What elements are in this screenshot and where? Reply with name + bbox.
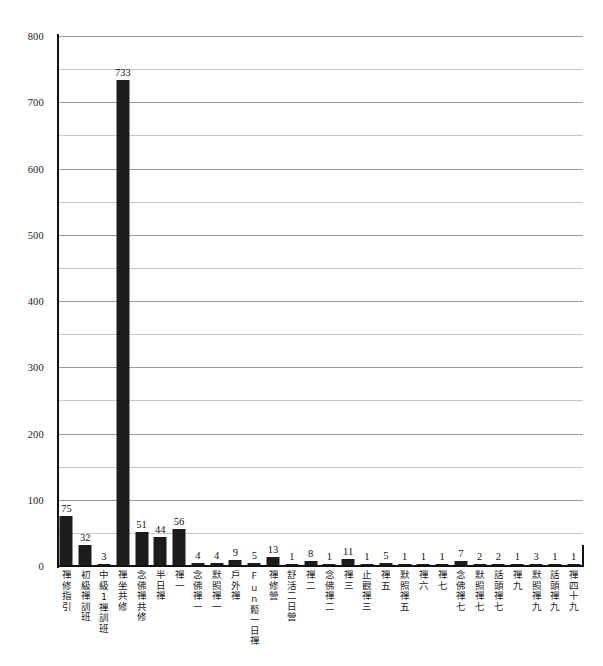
bar-value-label: 3 [533, 551, 538, 562]
bar-group: 2 [470, 36, 489, 566]
bar-group: 75 [57, 36, 76, 566]
x-axis-category-label: 舒活二日營 [286, 570, 297, 623]
y-axis-line [57, 34, 59, 568]
bar-value-label: 1 [571, 551, 576, 562]
x-axis-category-label: 默照禪七 [474, 570, 485, 612]
bar-value-label: 733 [115, 67, 131, 78]
bar-value-label: 5 [252, 550, 257, 561]
bar [135, 532, 148, 566]
y-axis-tick-label: 0 [39, 561, 44, 572]
bar-value-label: 1 [439, 551, 444, 562]
x-axis-category-labels: 禪修指引初級禪訓班中級1禪訓班禪坐共修念佛禪共修半日禪禪一念佛禪一默照禪一戶外禪… [57, 570, 583, 664]
bar-value-label: 56 [174, 516, 185, 527]
bar-group: 1 [282, 36, 301, 566]
bar-value-label: 9 [233, 547, 238, 558]
bar-group: 1 [395, 36, 414, 566]
x-axis-category-label: 默照禪九 [531, 570, 542, 612]
x-axis-category-label: 禪三 [343, 570, 354, 591]
x-axis-category-label: 禪修營 [268, 570, 279, 602]
bar-value-label: 11 [343, 546, 353, 557]
x-axis-category-label: Fun鬆一日禪 [249, 570, 260, 647]
bar-value-label: 7 [458, 548, 463, 559]
bar-group: 5 [245, 36, 264, 566]
bar-value-label: 1 [289, 551, 294, 562]
bar-value-label: 8 [308, 548, 313, 559]
bar-group: 3 [527, 36, 546, 566]
bar-value-label: 2 [477, 551, 482, 562]
bar-group: 1 [358, 36, 377, 566]
x-axis-category-label: 禪七 [437, 570, 448, 591]
x-axis-category-label: 默照禪一 [211, 570, 222, 612]
bar-value-label: 5 [383, 550, 388, 561]
bar [154, 537, 167, 566]
y-axis-tick-label: 500 [28, 229, 44, 240]
x-axis-category-label: 禪二 [305, 570, 316, 591]
x-axis-category-label: 禪修指引 [61, 570, 72, 612]
bar-group: 1 [508, 36, 527, 566]
x-axis-category-label: 念佛禪一 [192, 570, 203, 612]
bar-group: 2 [489, 36, 508, 566]
x-axis-category-label: 禪坐共修 [117, 570, 128, 612]
x-axis-right-cap [582, 545, 584, 567]
y-axis-tick-label: 700 [28, 97, 44, 108]
y-axis-tick-label: 200 [28, 428, 44, 439]
bar-value-label: 51 [136, 519, 147, 530]
x-axis-category-label: 念佛禪二 [324, 570, 335, 612]
y-axis-tick-label: 600 [28, 163, 44, 174]
x-axis-category-label: 禪四十九 [568, 570, 579, 612]
bar-group: 3 [95, 36, 114, 566]
bar-group: 11 [339, 36, 358, 566]
bar-value-label: 44 [155, 524, 166, 535]
bar [79, 545, 92, 566]
bar-value-label: 1 [402, 551, 407, 562]
x-axis-category-label: 戶外禪 [230, 570, 241, 602]
bar-value-label: 3 [101, 551, 106, 562]
x-axis-category-label: 念佛禪七 [455, 570, 466, 612]
bar-value-label: 1 [364, 551, 369, 562]
y-axis-tick-label: 300 [28, 362, 44, 373]
x-axis-category-label: 禪五 [380, 570, 391, 591]
bar-value-label: 75 [61, 503, 72, 514]
x-axis-category-label: 止觀禪三 [361, 570, 372, 612]
bar-value-label: 2 [496, 551, 501, 562]
bar [60, 516, 73, 566]
bar-group: 733 [113, 36, 132, 566]
bar-value-label: 1 [421, 551, 426, 562]
bar-group: 1 [433, 36, 452, 566]
bar-group: 32 [76, 36, 95, 566]
x-axis-category-label: 半日禪 [155, 570, 166, 602]
x-axis-category-label: 禪一 [174, 570, 185, 591]
bar-value-label: 1 [327, 551, 332, 562]
bar-group: 4 [189, 36, 208, 566]
x-axis-category-label: 話頭禪九 [549, 570, 560, 612]
x-axis-category-label: 中級1禪訓班 [98, 570, 109, 634]
x-axis-category-label: 話頭禪七 [493, 570, 504, 612]
bar-value-label: 13 [268, 544, 279, 555]
x-axis-category-label: 念佛禪共修 [136, 570, 147, 623]
bar-group: 56 [170, 36, 189, 566]
bar-group: 13 [264, 36, 283, 566]
bar-group: 5 [376, 36, 395, 566]
bar-group: 7 [452, 36, 471, 566]
bars: 7532373351445644951318111151117221311 [57, 36, 583, 566]
bar-group: 44 [151, 36, 170, 566]
bar-group: 4 [207, 36, 226, 566]
x-axis-category-label: 禪六 [418, 570, 429, 591]
bar-group: 1 [545, 36, 564, 566]
bar [173, 529, 186, 566]
bar-group: 1 [414, 36, 433, 566]
bar-group: 51 [132, 36, 151, 566]
x-axis-category-label: 初級禪訓班 [80, 570, 91, 623]
y-axis-tick-label: 800 [28, 31, 44, 42]
x-axis-category-label: 默照禪五 [399, 570, 410, 612]
bar-value-label: 4 [214, 550, 219, 561]
x-axis-line [57, 565, 584, 567]
bar-value-label: 32 [80, 532, 91, 543]
bar-value-label: 1 [515, 551, 520, 562]
y-axis-tick-label: 400 [28, 296, 44, 307]
bar-group: 8 [301, 36, 320, 566]
plot-area: 7532373351445644951318111151117221311 [57, 36, 583, 566]
bar-value-label: 1 [552, 551, 557, 562]
x-axis-category-label: 禪九 [512, 570, 523, 591]
bar [116, 80, 129, 566]
